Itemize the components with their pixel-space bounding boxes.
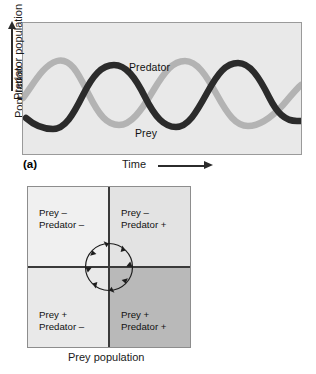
panel-b: Prey – Predator – Prey – Predator + Prey… [0, 180, 316, 374]
predator-prey-curves [23, 23, 301, 154]
predator-series-label: Predator [129, 61, 170, 73]
predator-prey-figure: Population Predator Prey (a) Time Prey –… [0, 0, 316, 374]
population-cycle-arrows [28, 187, 190, 347]
population-time-plot: Predator Prey [22, 22, 302, 155]
prey-series-label: Prey [135, 127, 157, 139]
time-axis-line [158, 165, 208, 167]
predator-population-axis-label: Predator population [12, 0, 24, 108]
prey-population-axis-label: Prey population [68, 351, 144, 363]
time-axis-label: Time [122, 158, 146, 170]
panel-a-tag: (a) [23, 158, 37, 170]
time-axis-arrow-icon [204, 161, 213, 169]
phase-plane-plot: Prey – Predator – Prey – Predator + Prey… [27, 186, 191, 348]
panel-a: Population Predator Prey (a) Time [0, 0, 316, 180]
cycle-arrowheads [86, 241, 133, 293]
